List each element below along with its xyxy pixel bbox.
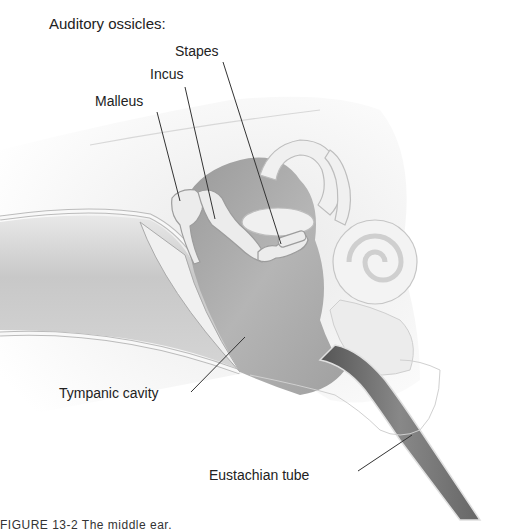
- figure-caption: FIGURE 13-2 The middle ear.: [0, 518, 172, 532]
- leader-line-eustachian-tube: [358, 435, 412, 471]
- label-incus: Incus: [150, 67, 183, 81]
- cochlea: [333, 220, 417, 304]
- label-eustachian-tube: Eustachian tube: [209, 468, 309, 482]
- label-stapes: Stapes: [175, 44, 219, 58]
- label-malleus: Malleus: [95, 94, 143, 108]
- label-tympanic-cavity: Tympanic cavity: [59, 386, 159, 400]
- figure-title: Auditory ossicles:: [49, 16, 166, 31]
- middle-ear-illustration: [0, 0, 510, 532]
